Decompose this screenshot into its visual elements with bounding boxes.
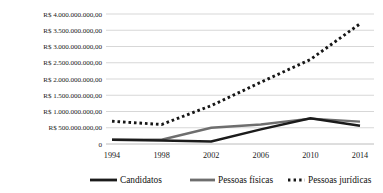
y-axis-tick-labels: R$ 4.000.000.000,00 R$ 3.500.000.000,00 …: [43, 11, 102, 149]
y-tick-label: R$ 3.000.000.000,00: [43, 43, 102, 51]
x-tick-label: 2002: [203, 151, 219, 160]
series-line-candidatos: [112, 118, 360, 141]
y-tick-label: R$ 4.000.000.000,00: [43, 11, 102, 19]
legend-label-candidatos: Candidatos: [120, 175, 162, 185]
x-tick-label: 2014: [352, 151, 368, 160]
y-tick-label: R$ 1.000.000.000,00: [43, 108, 102, 116]
x-tick-label: 1998: [153, 151, 169, 160]
line-chart: R$ 4.000.000.000,00 R$ 3.500.000.000,00 …: [0, 0, 383, 193]
legend-label-pessoas-juridicas: Pessoas jurídicas: [308, 175, 372, 185]
chart-legend: Candidatos Pessoas físicas Pessoas juríd…: [90, 175, 372, 185]
chart-svg: R$ 4.000.000.000,00 R$ 3.500.000.000,00 …: [0, 0, 383, 193]
legend-label-pessoas-fisicas: Pessoas físicas: [218, 175, 273, 185]
y-tick-label: R$ 3.500.000.000,00: [43, 27, 102, 35]
y-tick-label: R$ 2.000.000.000,00: [43, 76, 102, 84]
x-axis-tick-labels: 1994 1998 2002 2006 2010 2014: [104, 151, 368, 160]
x-tick-label: 2006: [253, 151, 269, 160]
series-group: [112, 24, 360, 142]
x-tick-label: 2010: [302, 151, 318, 160]
y-tick-label: R$ 1.500.000.000,00: [43, 92, 102, 100]
y-tick-label: 0: [99, 141, 103, 149]
x-tick-label: 1994: [104, 151, 120, 160]
series-line-pessoas-juridicas: [112, 24, 360, 125]
y-tick-label: R$ 2.500.000.000,00: [43, 59, 102, 67]
y-tick-label: R$ 500.000.000,00: [48, 124, 102, 132]
